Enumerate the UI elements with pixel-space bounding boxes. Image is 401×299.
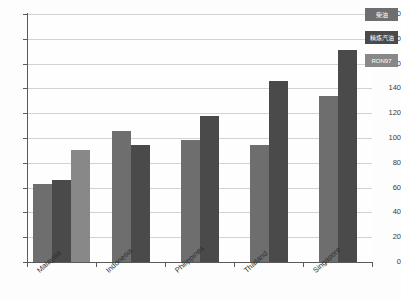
y-tick-label: 120 (377, 109, 401, 117)
x-tick-mark (27, 262, 28, 267)
bar-group (303, 14, 372, 262)
bar[interactable] (319, 96, 338, 262)
y-tick-label: 20 (377, 233, 401, 241)
bar-chart: 020406080100120140160180200 MalaysiaIndo… (0, 0, 401, 299)
y-tick-label: 100 (377, 134, 401, 142)
x-tick-mark (96, 262, 97, 267)
chart-legend: 柴油 精炼汽油 RON97 (365, 8, 398, 67)
y-axis-line (27, 13, 28, 263)
legend-item-diesel[interactable]: 柴油 (365, 8, 398, 21)
y-tick-label: 40 (377, 208, 401, 216)
bar[interactable] (181, 140, 200, 262)
bar[interactable] (200, 116, 219, 262)
y-tick-label: 60 (377, 184, 401, 192)
y-tick-mark (23, 14, 27, 15)
y-tick-label: 0 (377, 258, 401, 266)
y-tick-mark (23, 64, 27, 65)
y-tick-mark (23, 138, 27, 139)
bar[interactable] (33, 184, 52, 262)
bar[interactable] (338, 50, 357, 262)
bar[interactable] (131, 145, 150, 262)
plot-area (27, 14, 372, 262)
y-tick-mark (23, 39, 27, 40)
legend-item-ron97[interactable]: RON97 (365, 54, 398, 67)
bar-group (165, 14, 234, 262)
legend-swatch-ron97: RON97 (365, 54, 398, 67)
x-tick-mark (165, 262, 166, 267)
bar[interactable] (112, 131, 131, 262)
legend-item-gasoline[interactable]: 精炼汽油 (365, 31, 398, 44)
bar[interactable] (250, 145, 269, 262)
x-tick-mark (372, 262, 373, 267)
y-tick-label: 140 (377, 84, 401, 92)
y-tick-mark (23, 212, 27, 213)
y-tick-mark (23, 237, 27, 238)
legend-swatch-gasoline: 精炼汽油 (365, 31, 398, 44)
legend-swatch-diesel: 柴油 (365, 8, 398, 21)
bar-group (96, 14, 165, 262)
y-tick-mark (23, 163, 27, 164)
y-tick-label: 80 (377, 159, 401, 167)
y-tick-mark (23, 113, 27, 114)
x-tick-mark (234, 262, 235, 267)
y-tick-mark (23, 188, 27, 189)
x-tick-mark (303, 262, 304, 267)
y-tick-mark (23, 88, 27, 89)
bar[interactable] (71, 150, 90, 262)
bar-group (234, 14, 303, 262)
bar[interactable] (269, 81, 288, 262)
bar-group (27, 14, 96, 262)
